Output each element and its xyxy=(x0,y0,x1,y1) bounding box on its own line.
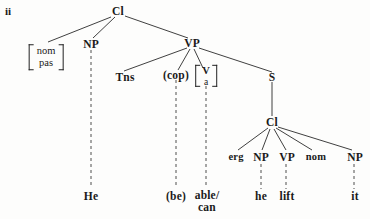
category-matrix-rows: V a xyxy=(200,65,212,87)
syntax-tree-figure: ii Cl nom pas NP VP Tns (cop) V a S Cl e… xyxy=(0,0,370,219)
matrix-right-bracket xyxy=(58,44,63,70)
terminal-able-can: able/ can xyxy=(195,189,220,213)
terminal-able-line2: can xyxy=(195,201,220,213)
node-embedded-np-object: NP xyxy=(347,151,363,163)
edge-embcl-to-vp xyxy=(274,129,286,150)
matrix-rows: nom pas xyxy=(34,44,59,70)
matrix-row-nom: nom xyxy=(37,45,56,57)
node-tns: Tns xyxy=(115,71,134,83)
category-matrix-row-a: a xyxy=(202,77,210,88)
edge-cl-to-vp xyxy=(125,16,188,38)
node-cop: (cop) xyxy=(163,69,189,81)
terminal-it: it xyxy=(351,190,358,202)
edge-vp-to-cop xyxy=(178,49,190,70)
node-root-cl: Cl xyxy=(112,5,124,17)
edge-embcl-to-np-subject xyxy=(262,129,270,150)
node-erg: erg xyxy=(228,151,243,162)
matrix-row-pas: pas xyxy=(37,57,56,69)
category-matrix-v-a: V a xyxy=(195,65,217,87)
tree-edges xyxy=(0,0,370,219)
node-subject-np: NP xyxy=(83,38,99,50)
terminal-he-lower: he xyxy=(255,190,267,202)
terminal-able-line1: able/ xyxy=(195,189,220,201)
node-s: S xyxy=(269,71,276,83)
node-embedded-vp: VP xyxy=(279,151,295,163)
enumeration-label: ii xyxy=(5,5,11,17)
terminal-lift: lift xyxy=(280,190,295,202)
node-nom: nom xyxy=(306,151,326,162)
edge-embcl-to-np-object xyxy=(278,127,352,150)
feature-matrix-nom-pas: nom pas xyxy=(29,44,64,70)
node-vp: VP xyxy=(184,37,200,49)
node-embedded-cl: Cl xyxy=(266,116,278,128)
terminal-be: (be) xyxy=(166,190,186,202)
category-matrix-row-v: V xyxy=(202,65,210,77)
category-matrix-right-bracket xyxy=(212,65,217,87)
edge-embcl-to-nom xyxy=(276,128,312,150)
terminal-he-upper: He xyxy=(84,190,98,202)
edge-vp-to-tns xyxy=(124,48,187,71)
node-embedded-np-subject: NP xyxy=(253,151,269,163)
